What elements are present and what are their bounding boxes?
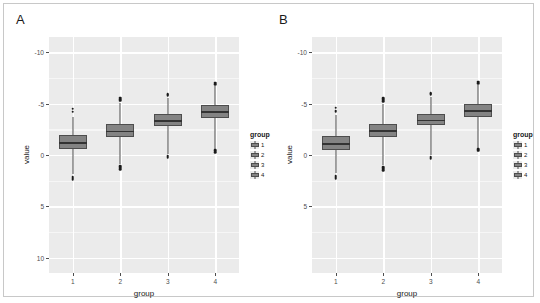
- y-axis-tick-label: -10: [35, 49, 44, 56]
- x-axis-tick-label: 3: [166, 278, 170, 285]
- legend-item-label: 2: [524, 152, 527, 158]
- boxplot-outlier-point: [119, 168, 122, 171]
- legend-key-boxplot-icon: [250, 141, 259, 149]
- legend-key-box: [514, 163, 522, 167]
- legend-item-1[interactable]: 1: [513, 140, 533, 150]
- x-axis-tick-mark: [120, 273, 121, 276]
- boxplot-group-1: [322, 37, 350, 273]
- x-axis-tick-mark: [168, 273, 169, 276]
- legend-key-box: [514, 153, 522, 157]
- boxplot-outlier-point: [119, 96, 122, 99]
- legend-item-label: 4: [261, 172, 264, 178]
- boxplot-whisker: [167, 98, 168, 155]
- legend-key-box: [251, 173, 259, 177]
- panel-b: B group value group 1234 50-5-101234: [267, 4, 532, 296]
- x-axis-tick-mark: [478, 273, 479, 276]
- boxplot-median-line: [464, 110, 492, 112]
- legend-key-boxplot-icon: [250, 151, 259, 159]
- x-axis-tick-label: 4: [476, 278, 480, 285]
- panel-b-legend: group 1234: [513, 131, 533, 180]
- boxplot-outlier-point: [429, 92, 432, 95]
- boxplot-outlier-point: [71, 178, 74, 181]
- y-axis-tick-mark: [309, 52, 312, 53]
- y-axis-tick-mark: [46, 258, 49, 259]
- panel-b-y-axis-title: value: [285, 140, 294, 170]
- y-axis-tick-label: -5: [301, 100, 307, 107]
- boxplot-outlier-point: [214, 151, 217, 154]
- boxplot-median-line: [417, 120, 445, 122]
- boxplot-outlier-point: [214, 81, 217, 84]
- boxplot-outlier-point: [166, 156, 169, 159]
- x-axis-tick-label: 3: [429, 278, 433, 285]
- y-axis-tick-mark: [46, 155, 49, 156]
- y-axis-tick-label: 5: [303, 203, 307, 210]
- boxplot-group-3: [417, 37, 445, 273]
- boxplot-group-4: [464, 37, 492, 273]
- y-axis-tick-label: 0: [40, 152, 44, 159]
- boxplot-outlier-point: [166, 93, 169, 96]
- boxplot-median-line: [369, 130, 397, 132]
- y-axis-tick-label: -5: [38, 100, 44, 107]
- boxplot-outlier-point: [477, 150, 480, 153]
- panel-a: A group value group 1234 1050-5-101234: [4, 4, 269, 296]
- panel-b-plot-area: [312, 37, 502, 273]
- x-axis-tick-label: 1: [334, 278, 338, 285]
- boxplot-group-3: [154, 37, 182, 273]
- boxplot-group-2: [106, 37, 134, 273]
- panel-b-legend-items: 1234: [513, 140, 533, 180]
- x-axis-tick-mark: [383, 273, 384, 276]
- legend-item-label: 3: [261, 162, 264, 168]
- y-axis-tick-mark: [46, 104, 49, 105]
- legend-item-label: 1: [261, 142, 264, 148]
- panel-a-plot-area: [49, 37, 239, 273]
- boxplot-median-line: [322, 143, 350, 145]
- legend-key-box: [251, 163, 259, 167]
- y-axis-tick-mark: [309, 155, 312, 156]
- y-axis-tick-label: 5: [40, 203, 44, 210]
- x-axis-tick-mark: [73, 273, 74, 276]
- boxplot-median-line: [201, 111, 229, 113]
- legend-item-label: 4: [524, 172, 527, 178]
- legend-key-boxplot-icon: [513, 171, 522, 179]
- y-axis-tick-label: -10: [298, 49, 307, 56]
- legend-key-box: [514, 173, 522, 177]
- y-axis-tick-mark: [46, 52, 49, 53]
- boxplot-group-4: [201, 37, 229, 273]
- boxplot-outlier-point: [334, 110, 337, 113]
- legend-item-2[interactable]: 2: [513, 150, 533, 160]
- legend-key-boxplot-icon: [513, 161, 522, 169]
- x-axis-tick-label: 2: [381, 278, 385, 285]
- boxplot-median-line: [154, 120, 182, 122]
- boxplot-median-line: [106, 131, 134, 133]
- legend-item-label: 2: [261, 152, 264, 158]
- x-axis-tick-mark: [336, 273, 337, 276]
- boxplot-outlier-point: [429, 157, 432, 160]
- x-axis-tick-mark: [431, 273, 432, 276]
- x-axis-tick-mark: [215, 273, 216, 276]
- legend-item-4[interactable]: 4: [513, 170, 533, 180]
- boxplot-whisker: [430, 97, 431, 155]
- panel-b-legend-title: group: [513, 131, 533, 138]
- boxplot-outlier-point: [334, 107, 337, 110]
- panel-a-x-axis-title: group: [49, 289, 239, 298]
- y-axis-tick-label: 0: [303, 152, 307, 159]
- panel-b-x-axis-title: group: [312, 289, 502, 298]
- boxplot-group-2: [369, 37, 397, 273]
- legend-key-boxplot-icon: [513, 141, 522, 149]
- legend-item-3[interactable]: 3: [513, 160, 533, 170]
- panel-a-tag: A: [16, 12, 25, 27]
- boxplot-outlier-point: [382, 169, 385, 172]
- boxplot-outlier-point: [334, 177, 337, 180]
- figure-frame: A group value group 1234 1050-5-101234 B…: [3, 3, 534, 297]
- panel-a-y-axis-title: value: [22, 140, 31, 170]
- boxplot-outlier-point: [477, 80, 480, 83]
- legend-key-box: [251, 153, 259, 157]
- boxplot-outlier-point: [382, 97, 385, 100]
- legend-item-label: 3: [524, 162, 527, 168]
- legend-key-box: [251, 143, 259, 147]
- legend-key-boxplot-icon: [513, 151, 522, 159]
- y-axis-tick-mark: [309, 206, 312, 207]
- legend-key-box: [514, 143, 522, 147]
- panel-b-tag: B: [279, 12, 288, 27]
- legend-key-boxplot-icon: [250, 161, 259, 169]
